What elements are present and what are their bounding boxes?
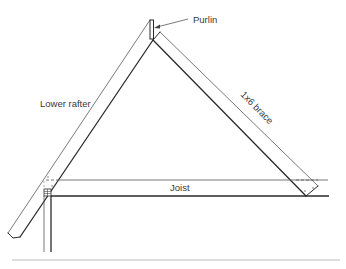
purlin-leader-arrow [154, 19, 188, 29]
roof-framing-diagram: Purlin Lower rafter 1x6 brace Joist [0, 0, 346, 269]
label-brace: 1x6 brace [239, 89, 276, 126]
label-lower-rafter: Lower rafter [40, 98, 91, 109]
lower-rafter [8, 20, 153, 238]
label-purlin: Purlin [193, 14, 217, 25]
brace [153, 32, 318, 196]
label-joist: Joist [170, 182, 190, 193]
purlin [150, 20, 154, 39]
wall-post [44, 181, 51, 252]
